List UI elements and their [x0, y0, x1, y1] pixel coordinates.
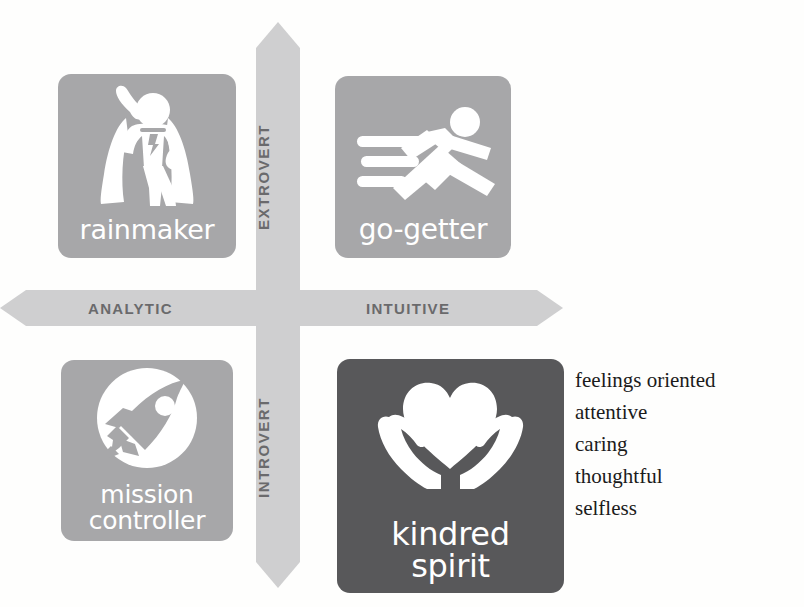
axis-label-extrovert: EXTROVERT — [255, 112, 301, 242]
axis-label-introvert: INTROVERT — [255, 382, 301, 512]
superhero-icon — [58, 82, 236, 212]
axis-label-analytic: ANALYTIC — [88, 300, 173, 317]
diagram-canvas: ANALYTIC INTUITIVE EXTROVERT INTROVERT — [0, 0, 804, 607]
list-item: caring — [575, 429, 800, 461]
quadrant-rainmaker[interactable]: rainmaker — [58, 74, 236, 258]
heart-in-hands-icon — [337, 371, 564, 501]
list-item: thoughtful — [575, 461, 800, 493]
running-person-icon — [335, 98, 511, 208]
quadrant-mission-controller[interactable]: mission controller — [61, 360, 233, 541]
caption-line-2: controller — [61, 508, 233, 534]
quadrant-caption-kindred-spirit: kindred spirit — [337, 518, 564, 583]
trait-list: feelings oriented attentive caring thoug… — [575, 365, 800, 525]
quadrant-kindred-spirit[interactable]: kindred spirit — [337, 359, 564, 593]
list-item: selfless — [575, 493, 800, 525]
quadrant-caption-mission-controller: mission controller — [61, 482, 233, 533]
list-item: attentive — [575, 397, 800, 429]
quadrant-go-getter[interactable]: go-getter — [335, 76, 511, 258]
quadrant-caption-go-getter: go-getter — [335, 216, 511, 245]
axis-label-intuitive: INTUITIVE — [366, 300, 450, 317]
caption-line-2: spirit — [337, 550, 564, 583]
caption-line-1: mission — [61, 482, 233, 508]
quadrant-caption-rainmaker: rainmaker — [58, 216, 236, 244]
caption-line-1: kindred — [337, 518, 564, 551]
rocket-in-circle-icon — [61, 366, 233, 470]
list-item: feelings oriented — [575, 365, 800, 397]
